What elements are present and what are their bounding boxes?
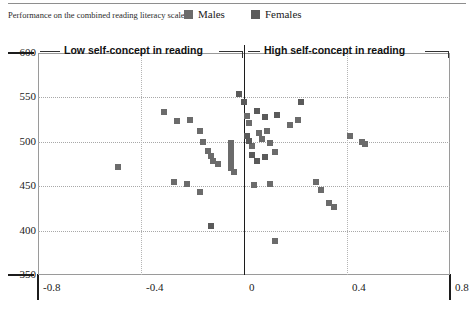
y-tick-label: 450 [4,179,36,191]
y-axis-cap [8,52,34,54]
square-swatch-icon [184,10,193,19]
data-point-males [272,149,278,155]
data-point-males [161,109,167,115]
legend-item-males: Males [184,9,225,20]
data-point-females [249,152,255,158]
y-axis-tick-labels: 600550500450400350 [0,0,36,316]
top-divider [8,3,466,4]
data-point-females [241,99,247,105]
y-tick-label: 550 [4,90,36,102]
data-point-males [174,118,180,124]
data-point-males [200,139,206,145]
x-axis-cap [449,274,451,300]
annotation-rule-left [40,51,60,52]
x-tick-label: 0.8 [455,281,469,293]
data-point-males [331,204,337,210]
data-point-males [347,133,353,139]
plot-area [38,53,450,275]
data-point-males [256,130,262,136]
y-tick-label: 400 [4,224,36,236]
data-point-females [208,223,214,229]
annotation-tick [242,51,243,58]
annotation-rule-left [248,51,260,52]
data-point-males [171,179,177,185]
annotation-high-self-concept: High self-concept in reading [264,44,405,56]
data-point-females [236,91,242,97]
plot-frame-left [38,53,39,275]
data-point-males [264,128,270,134]
x-axis-cap [37,274,39,300]
annotation-rule-right [219,51,242,52]
x-tick-label: 0 [249,281,255,293]
data-point-males [287,122,293,128]
data-point-males [197,189,203,195]
data-point-males [187,117,193,123]
data-point-males [272,238,278,244]
data-point-males [231,169,237,175]
data-point-males [246,120,252,126]
data-point-males [115,164,121,170]
data-point-males [184,181,190,187]
x-tick-label: -0.4 [146,281,163,293]
data-point-females [274,112,280,118]
y-tick-label: 500 [4,135,36,147]
legend-label-females: Females [265,9,302,20]
data-point-males [215,161,221,167]
data-point-males [251,182,257,188]
data-point-males [313,179,319,185]
x-tick-label: -0.8 [43,281,60,293]
gridline-vertical [347,53,348,275]
data-point-males [267,140,273,146]
data-point-males [197,128,203,134]
data-point-females [298,99,304,105]
legend-spacer [231,14,245,15]
y-axis-cap [8,274,34,276]
chart-root: Performance on the combined reading lite… [0,0,474,316]
data-point-females [246,138,252,144]
data-point-females [254,158,260,164]
data-point-males [362,141,368,147]
data-point-males [267,181,273,187]
legend-label-males: Males [198,9,225,20]
data-point-males [295,117,301,123]
plot-frame-right [449,53,450,275]
gridline-vertical [141,53,142,275]
annotation-tick [448,51,449,58]
x-tick-label: 0.4 [352,281,366,293]
data-point-males [249,143,255,149]
annotation-rule-right [425,51,448,52]
data-point-males [318,187,324,193]
data-point-males [259,136,265,142]
chart-legend: Males Females [184,9,302,20]
data-point-males [244,113,250,119]
legend-item-females: Females [251,9,302,20]
reference-line-zero [244,45,245,275]
annotation-low-self-concept: Low self-concept in reading [64,44,203,56]
data-point-females [254,108,260,114]
square-swatch-icon [251,10,260,19]
data-point-females [262,114,268,120]
data-point-females [262,154,268,160]
